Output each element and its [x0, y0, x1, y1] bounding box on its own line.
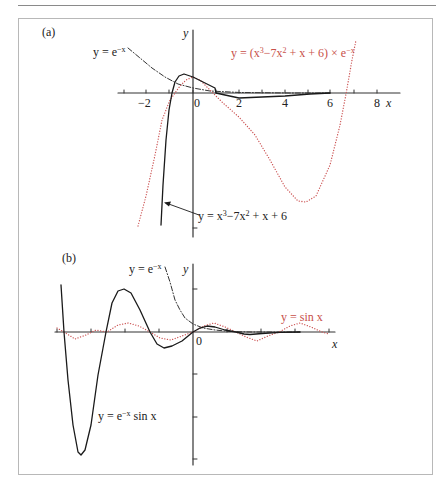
panel-b-damped-label: y = e−x sin x — [98, 410, 157, 422]
panel-a-plot — [118, 30, 400, 237]
panel-a-xtick-0: 0 — [194, 97, 200, 109]
panel-a-pointer-arrow — [166, 203, 199, 215]
panel-b-label: (b) — [62, 252, 76, 264]
panel-b-damped-sine-curve — [61, 285, 300, 455]
panel-a-xtick-4: 4 — [282, 97, 288, 109]
panel-a-red-dotted-curve — [138, 40, 356, 226]
panel-b-x-axis-label: x — [332, 338, 337, 350]
panel-b-origin-label: 0 — [196, 335, 202, 347]
panel-a-label: (a) — [42, 26, 55, 38]
arrowhead-icon — [164, 202, 171, 207]
panel-a-x-axis-label: x — [386, 97, 391, 109]
panel-b-exp-curve — [165, 267, 300, 332]
panel-b-plot — [55, 264, 335, 465]
panel-a-xtick-8: 8 — [374, 97, 380, 109]
panel-a-exp-label: y = e−x — [93, 46, 126, 58]
figure-plot-area — [0, 0, 436, 490]
panel-a-xtick-neg2: −2 — [138, 97, 151, 109]
panel-a-product-label: y = (x3−7x2 + x + 6) × e−x — [231, 47, 355, 59]
panel-a-xtick-2: 2 — [236, 97, 242, 109]
panel-b-sin-label: y = sin x — [281, 311, 323, 323]
panel-b-exp-label: y = e−x — [129, 263, 162, 275]
panel-a-xtick-6: 6 — [327, 97, 333, 109]
panel-b-y-axis-label: y — [183, 263, 188, 275]
panel-a-cubic-label: y = x3−7x2 + x + 6 — [198, 210, 287, 222]
panel-a-y-axis-label: y — [183, 27, 188, 39]
